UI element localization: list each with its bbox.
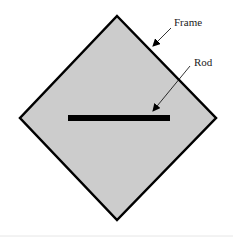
frame-leader-arrow [153,28,171,46]
rod [68,115,170,121]
frame-label: Frame [174,16,202,28]
rod-label: Rod [194,56,213,68]
diagram-canvas: Frame Rod [0,0,233,242]
